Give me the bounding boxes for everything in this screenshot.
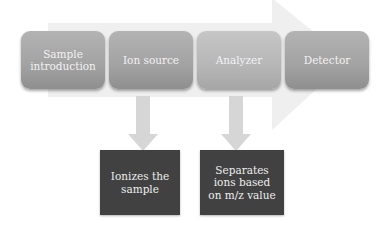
description-label: Ionizes the sample — [110, 170, 170, 195]
stage-sample-introduction: Sample introduction — [21, 31, 105, 89]
stage-label: Analyzer — [216, 54, 263, 66]
description-label: Separates ions based on m/z value — [207, 164, 277, 202]
description-analyzer: Separates ions based on m/z value — [200, 150, 284, 215]
down-arrow-icon — [128, 96, 158, 152]
stage-analyzer: Analyzer — [197, 31, 281, 89]
description-ion-source: Ionizes the sample — [100, 150, 180, 215]
stage-ion-source: Ion source — [109, 31, 193, 89]
stage-label: Ion source — [123, 54, 179, 66]
down-arrow-icon — [221, 96, 251, 152]
stage-label: Detector — [304, 54, 351, 66]
stage-detector: Detector — [285, 31, 369, 89]
stage-label: Sample introduction — [21, 48, 105, 72]
